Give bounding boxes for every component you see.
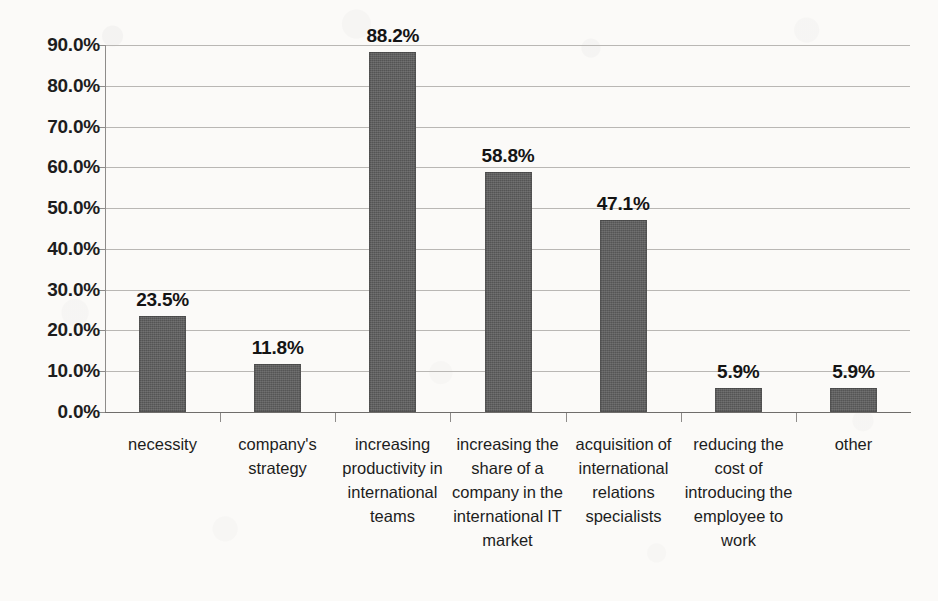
x-axis-category-label: company's strategy	[220, 432, 335, 480]
bar-value-label: 11.8%	[252, 337, 304, 359]
x-tick-mark	[335, 413, 336, 422]
x-tick-mark	[681, 413, 682, 422]
x-tick-mark	[566, 413, 567, 422]
x-axis-category-label: reducing the cost of introducing the emp…	[681, 432, 796, 552]
x-axis-line	[105, 412, 911, 413]
bar-value-label: 5.9%	[832, 361, 875, 383]
y-axis-tick-label: 90.0%	[8, 34, 100, 56]
x-axis-category-label: increasing productivity in international…	[335, 432, 450, 528]
bar-value-label: 23.5%	[136, 289, 189, 311]
gridline	[105, 167, 910, 168]
y-axis-tick-label: 80.0%	[8, 75, 100, 97]
x-axis-category-label: acquisition of international relations s…	[566, 432, 681, 528]
bar[interactable]	[139, 316, 186, 412]
x-axis-category-label: other	[796, 432, 911, 456]
x-axis-category-label: necessity	[105, 432, 220, 456]
x-axis-category-label: increasing the share of a company in the…	[450, 432, 565, 552]
y-axis-tick-label: 10.0%	[8, 360, 100, 382]
bar-value-label: 5.9%	[717, 361, 760, 383]
gridline	[105, 45, 910, 46]
bar-value-label: 58.8%	[482, 145, 535, 167]
gridline	[105, 127, 910, 128]
bar[interactable]	[485, 172, 532, 412]
x-tick-mark	[450, 413, 451, 422]
y-axis-tick-label: 30.0%	[8, 279, 100, 301]
bar[interactable]	[715, 388, 762, 412]
y-axis-tick-label: 70.0%	[8, 116, 100, 138]
y-axis-tick-label: 0.0%	[8, 401, 100, 423]
bar-value-label: 88.2%	[366, 25, 419, 47]
bar-value-label: 47.1%	[597, 193, 650, 215]
gridline	[105, 86, 910, 87]
bar[interactable]	[254, 364, 301, 412]
y-axis-tick-label: 50.0%	[8, 197, 100, 219]
y-axis: 0.0%10.0%20.0%30.0%40.0%50.0%60.0%70.0%8…	[0, 0, 100, 601]
y-axis-tick-label: 40.0%	[8, 238, 100, 260]
bar-chart: 0.0%10.0%20.0%30.0%40.0%50.0%60.0%70.0%8…	[0, 0, 938, 601]
x-tick-mark	[796, 413, 797, 422]
y-axis-tick-label: 20.0%	[8, 319, 100, 341]
y-axis-tick-label: 60.0%	[8, 156, 100, 178]
bar[interactable]	[369, 52, 416, 412]
x-tick-mark	[220, 413, 221, 422]
y-axis-line	[105, 45, 106, 413]
bar[interactable]	[830, 388, 877, 412]
bar[interactable]	[600, 220, 647, 412]
